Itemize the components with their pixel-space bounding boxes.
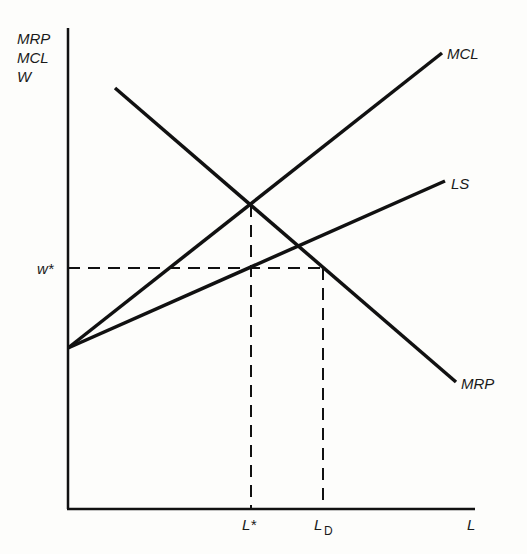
ls-label: LS xyxy=(451,175,469,192)
mcl-label: MCL xyxy=(447,45,479,62)
y-label-w: W xyxy=(17,68,33,85)
mrp-label: MRP xyxy=(461,375,494,392)
mrp-curve xyxy=(115,88,456,382)
y-label-mcl: MCL xyxy=(17,49,49,66)
w-star-label: w* xyxy=(37,260,55,277)
y-label-mrp: MRP xyxy=(17,30,50,47)
l-star-label: L* xyxy=(242,516,257,533)
l-d-label: L xyxy=(314,516,322,533)
monopsony-diagram: MRP MCL W MCL LS MRP w* L* L D L xyxy=(0,0,527,554)
l-d-subscript: D xyxy=(324,524,333,538)
x-label-l: L xyxy=(467,516,475,533)
